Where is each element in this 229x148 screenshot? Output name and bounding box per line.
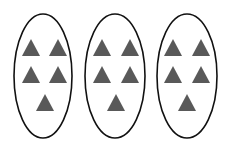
triangle-icon [49,39,67,56]
triangle-icon [22,39,40,56]
triangle-icon [192,39,210,56]
group-3 [157,14,217,138]
triangle-icon [121,66,139,83]
triangle-icon [36,94,54,111]
triangle-icon [192,66,210,83]
group-ellipse [14,14,72,138]
triangle-icon [93,39,111,56]
triangle-icon [22,66,40,83]
triangle-icon [164,39,182,56]
triangle-icon [164,66,182,83]
group-ellipse [157,14,217,138]
group-1 [14,14,72,138]
triangle-icon [49,66,67,83]
group-2 [85,14,145,138]
triangle-icon [93,66,111,83]
triangle-icon [107,94,125,111]
triangle-icon [121,39,139,56]
group-ellipse [85,14,145,138]
triangle-icon [178,94,196,111]
equal-groups-diagram [0,0,229,148]
